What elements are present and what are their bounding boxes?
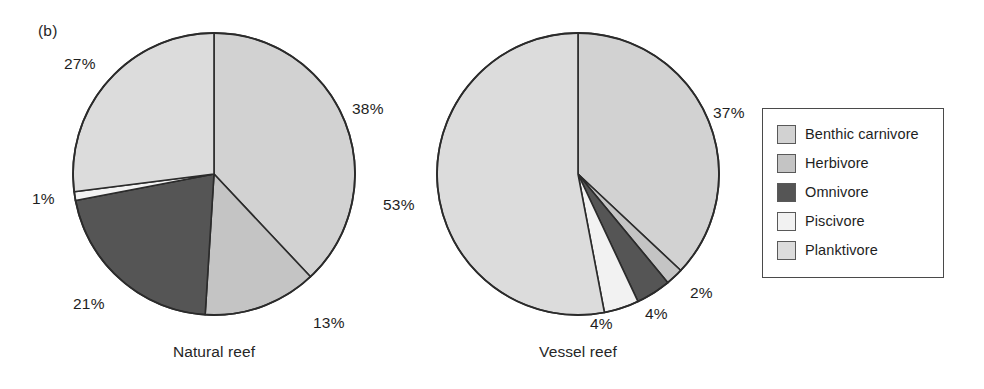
slice-label-natural-reef-herbivore: 13% bbox=[313, 314, 345, 332]
pie-svg-vessel-reef bbox=[434, 30, 722, 318]
feeding-guild-legend: Benthic carnivoreHerbivoreOmnivorePisciv… bbox=[762, 108, 944, 278]
pie-chart-vessel-reef bbox=[434, 30, 722, 318]
legend-swatch-icon-herbivore bbox=[777, 154, 796, 173]
slice-label-natural-reef-piscivore: 1% bbox=[32, 190, 55, 208]
slice-label-natural-reef-omnivore: 21% bbox=[73, 295, 105, 313]
legend-label: Planktivore bbox=[805, 243, 878, 258]
pie-caption-vessel-reef: Vessel reef bbox=[428, 343, 728, 361]
slice-label-vessel-reef-herbivore: 2% bbox=[690, 284, 713, 302]
legend-item-herbivore[interactable]: Herbivore bbox=[777, 149, 943, 178]
legend-swatch-icon-planktivore bbox=[777, 241, 796, 260]
legend-item-planktivore[interactable]: Planktivore bbox=[777, 236, 943, 265]
slice-label-natural-reef-planktivore: 27% bbox=[64, 55, 96, 73]
slice-label-vessel-reef-piscivore: 4% bbox=[590, 315, 613, 333]
slice-label-vessel-reef-benthic-carnivore: 37% bbox=[713, 104, 745, 122]
legend-label: Piscivore bbox=[805, 214, 865, 229]
pie-caption-natural-reef: Natural reef bbox=[64, 343, 364, 361]
legend-swatch-icon-benthic-carnivore bbox=[777, 125, 796, 144]
legend-label: Omnivore bbox=[805, 185, 869, 200]
pie-svg-natural-reef bbox=[70, 30, 358, 318]
legend-item-benthic-carnivore[interactable]: Benthic carnivore bbox=[777, 120, 943, 149]
legend-label: Benthic carnivore bbox=[805, 127, 919, 142]
legend-swatch-icon-piscivore bbox=[777, 212, 796, 231]
legend-swatch-icon-omnivore bbox=[777, 183, 796, 202]
figure-panel-b: (b) 38%13%21%1%27%Natural reef37%2%4%4%5… bbox=[0, 0, 984, 389]
panel-label: (b) bbox=[38, 22, 58, 40]
pie-chart-natural-reef bbox=[70, 30, 358, 318]
legend-item-omnivore[interactable]: Omnivore bbox=[777, 178, 943, 207]
legend-label: Herbivore bbox=[805, 156, 869, 171]
slice-label-vessel-reef-planktivore: 53% bbox=[383, 196, 415, 214]
legend-item-piscivore[interactable]: Piscivore bbox=[777, 207, 943, 236]
slice-label-vessel-reef-omnivore: 4% bbox=[645, 305, 668, 323]
slice-label-natural-reef-benthic-carnivore: 38% bbox=[352, 100, 384, 118]
